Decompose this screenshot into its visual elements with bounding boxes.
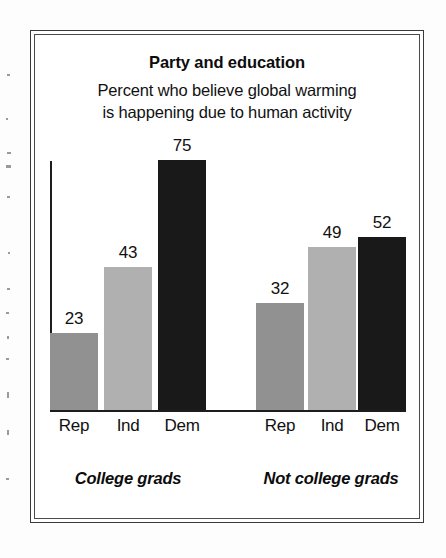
scan-artifact (7, 336, 9, 339)
bar (308, 247, 356, 410)
category-label-rep: Rep (252, 416, 308, 436)
category-label-ind: Ind (100, 416, 156, 436)
scan-artifact (6, 478, 9, 480)
figure-border-frame: Party and education Percent who believe … (30, 30, 424, 523)
bar (158, 160, 206, 410)
bar-value-label: 52 (358, 213, 406, 233)
scan-artifact (7, 288, 10, 290)
scan-artifact (7, 74, 10, 76)
bar (104, 267, 152, 410)
group-label: College grads (36, 469, 220, 488)
scan-artifact (6, 165, 11, 168)
scan-artifact (6, 118, 8, 120)
bar-value-label: 49 (308, 223, 356, 243)
bar (358, 237, 406, 410)
category-label-rep: Rep (46, 416, 102, 436)
category-label-dem: Dem (154, 416, 210, 436)
bar-chart-plot-area: RepIndDemRepIndDem College gradsNot coll… (31, 31, 425, 524)
scan-artifact (7, 152, 11, 154)
bar-value-label: 32 (256, 279, 304, 299)
group-label: Not college grads (242, 469, 420, 488)
scan-artifact (6, 312, 9, 314)
scan-artifact (7, 196, 10, 198)
category-label-dem: Dem (354, 416, 410, 436)
scan-artifact (7, 430, 9, 435)
scanned-figure-page: Party and education Percent who believe … (0, 0, 446, 558)
bar-value-label: 75 (158, 136, 206, 156)
category-label-ind: Ind (304, 416, 360, 436)
scan-artifact (8, 252, 10, 254)
bar-value-label: 43 (104, 243, 152, 263)
bar-value-label: 23 (50, 309, 98, 329)
scan-artifact (6, 358, 9, 360)
bar (50, 333, 98, 410)
scan-artifact (7, 392, 9, 398)
x-axis-baseline (50, 410, 406, 412)
bar (256, 303, 304, 410)
